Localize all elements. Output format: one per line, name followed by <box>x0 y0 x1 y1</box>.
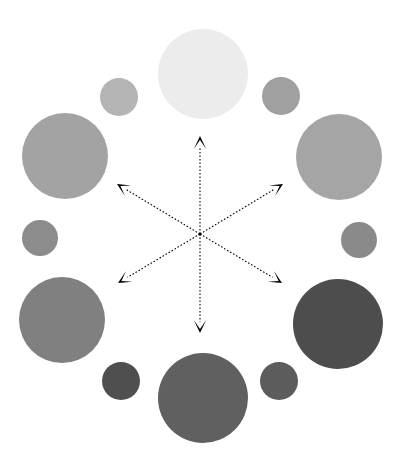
arrow-origin-point <box>198 232 201 235</box>
circle-large-upper-left <box>22 113 108 199</box>
circle-large-top <box>158 29 248 119</box>
circle-small-bottom-right <box>260 362 298 400</box>
circle-small-mid-right <box>341 222 377 258</box>
circle-small-top-right <box>262 77 300 115</box>
circle-large-lower-right <box>293 279 383 369</box>
circle-large-upper-right <box>296 114 382 200</box>
circle-small-top-left <box>100 78 138 116</box>
radial-circle-diagram <box>0 0 399 464</box>
figure-canvas <box>0 0 399 464</box>
circle-large-bottom <box>158 353 248 443</box>
circle-small-bottom-left <box>102 362 140 400</box>
circle-large-lower-left <box>19 277 105 363</box>
circle-small-mid-left <box>22 220 58 256</box>
